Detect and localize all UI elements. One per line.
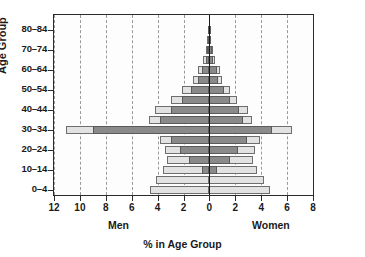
bar-dark-men-40-44	[171, 106, 210, 114]
age-band-0-4	[54, 185, 313, 195]
y-tick	[48, 70, 54, 71]
bar-dark-women-55-59	[209, 76, 218, 84]
bar-dark-women-30-34	[209, 126, 271, 134]
y-tick-label-70-74: 70–74	[22, 43, 47, 54]
y-tick-label-50-54: 50–54	[22, 83, 47, 94]
x-tick	[132, 196, 133, 201]
bar-dark-women-15-19	[209, 156, 230, 164]
y-tick	[48, 170, 54, 171]
bar-dark-women-25-29	[209, 136, 247, 144]
x-tick	[209, 196, 210, 201]
x-tick-label-2-5: 2	[172, 202, 196, 213]
age-band-70-74	[54, 45, 313, 55]
age-band-15-19	[54, 155, 313, 165]
y-tick	[48, 150, 54, 151]
y-tick	[48, 130, 54, 131]
bar-dark-men-60-64	[202, 66, 210, 74]
bar-dark-men-55-59	[198, 76, 210, 84]
x-tick	[287, 196, 288, 201]
bar-dark-men-15-19	[189, 156, 210, 164]
bar-dark-women-50-54	[209, 86, 223, 94]
y-tick	[48, 30, 54, 31]
bar-dark-women-35-39	[209, 116, 243, 124]
x-tick	[261, 196, 262, 201]
x-tick	[158, 196, 159, 201]
age-band-20-24	[54, 145, 313, 155]
x-tick-label-0-6: 0	[197, 202, 221, 213]
age-band-60-64	[54, 65, 313, 75]
age-band-40-44	[54, 105, 313, 115]
x-tick	[235, 196, 236, 201]
x-tick	[80, 196, 81, 201]
bar-dark-women-20-24	[209, 146, 237, 154]
x-tick	[313, 196, 314, 201]
x-tick-label-8-10: 8	[301, 202, 325, 213]
x-tick-label-8-2: 8	[94, 202, 118, 213]
plot-inner	[54, 15, 313, 195]
plot-area	[53, 14, 314, 196]
bar-light-women-0-4	[209, 186, 270, 194]
age-band-25-29	[54, 135, 313, 145]
bar-dark-men-45-49	[182, 96, 209, 104]
bar-light-men-5-9	[156, 176, 209, 184]
age-band-5-9	[54, 175, 313, 185]
x-tick	[54, 196, 55, 201]
age-band-30-34	[54, 125, 313, 135]
zero-axis-line	[209, 15, 210, 195]
y-tick	[48, 110, 54, 111]
y-tick-label-80-84: 80–84	[22, 23, 47, 34]
x-tick-label-4-4: 4	[146, 202, 170, 213]
bar-dark-men-35-39	[160, 116, 209, 124]
bar-dark-women-60-64	[209, 66, 216, 74]
y-tick-label-60-64: 60–64	[22, 63, 47, 74]
y-axis-title: Age Group	[0, 17, 8, 74]
bar-dark-men-30-34	[93, 126, 210, 134]
age-band-85+	[54, 15, 313, 25]
y-tick	[48, 50, 54, 51]
women-side-label: Women	[252, 219, 290, 231]
x-axis-title: % in Age Group	[0, 238, 365, 250]
bar-dark-men-10-14	[202, 166, 210, 174]
x-tick-label-6-3: 6	[120, 202, 144, 213]
y-tick-label-30-34: 30–34	[22, 123, 47, 134]
age-band-55-59	[54, 75, 313, 85]
bar-light-men-0-4	[150, 186, 210, 194]
bar-dark-women-40-44	[209, 106, 239, 114]
age-band-10-14	[54, 165, 313, 175]
y-tick-label-10-14: 10–14	[22, 163, 47, 174]
x-tick	[106, 196, 107, 201]
x-tick-label-2-7: 2	[223, 202, 247, 213]
bar-dark-women-45-49	[209, 96, 230, 104]
bar-dark-men-20-24	[180, 146, 210, 154]
bar-dark-men-25-29	[171, 136, 210, 144]
age-band-35-39	[54, 115, 313, 125]
y-tick-label-0-4: 0–4	[32, 183, 47, 194]
age-band-50-54	[54, 85, 313, 95]
y-tick	[48, 90, 54, 91]
y-tick-label-40-44: 40–44	[22, 103, 47, 114]
age-band-80-84	[54, 25, 313, 35]
x-tick-label-4-8: 4	[249, 202, 273, 213]
y-tick-label-20-24: 20–24	[22, 143, 47, 154]
bar-light-women-5-9	[209, 176, 263, 184]
age-band-75-79	[54, 35, 313, 45]
bar-light-women-10-14	[209, 166, 257, 174]
bar-dark-men-50-54	[191, 86, 209, 94]
men-side-label: Men	[108, 219, 129, 231]
x-tick-label-6-9: 6	[275, 202, 299, 213]
population-pyramid-figure: Age Group 1210864202468 Men Women % in A…	[0, 0, 365, 257]
x-tick	[184, 196, 185, 201]
y-tick	[48, 190, 54, 191]
x-tick-label-10-1: 10	[68, 202, 92, 213]
x-tick-label-12-0: 12	[42, 202, 66, 213]
bar-dark-women-10-14	[209, 166, 216, 174]
age-band-65-69	[54, 55, 313, 65]
age-band-45-49	[54, 95, 313, 105]
